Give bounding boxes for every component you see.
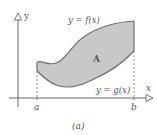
figure-caption: (a) bbox=[72, 121, 85, 131]
region-a bbox=[37, 21, 134, 87]
tick-label-a: a bbox=[34, 102, 39, 112]
tick-label-b: b bbox=[131, 102, 137, 112]
curve-g-label: y = g(x) bbox=[95, 85, 130, 95]
area-between-curves-diagram: y x a b y = f(x) y = g(x) A (a) bbox=[0, 0, 157, 135]
y-axis-label: y bbox=[23, 11, 30, 21]
region-label: A bbox=[92, 54, 101, 64]
x-axis-label: x bbox=[146, 83, 151, 93]
x-axis-arrow-icon bbox=[146, 95, 153, 102]
curve-f-label: y = f(x) bbox=[67, 15, 100, 25]
y-axis-arrow-icon bbox=[15, 13, 22, 20]
